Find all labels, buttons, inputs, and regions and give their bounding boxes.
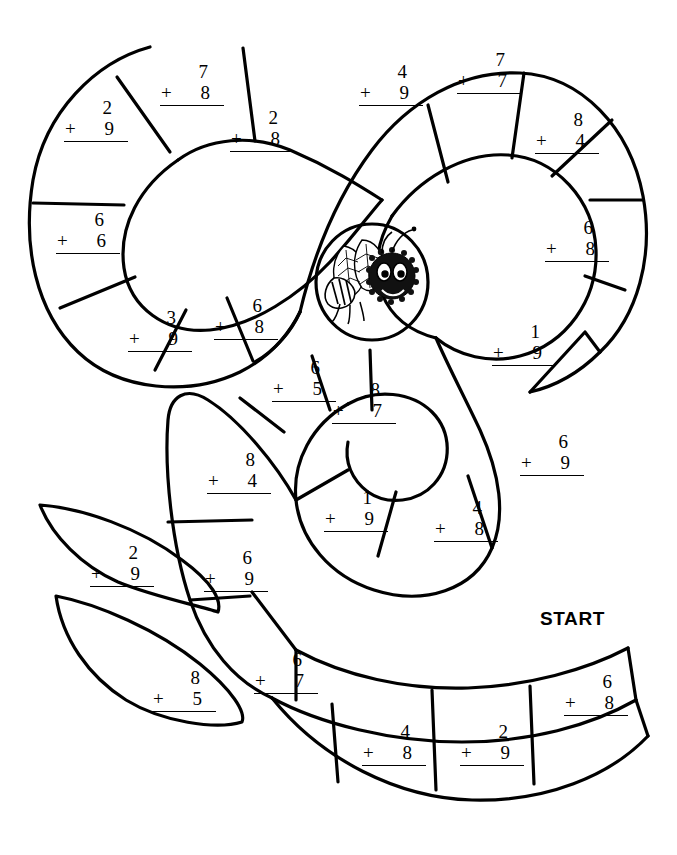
addend-bottom-row: +8 bbox=[362, 743, 426, 766]
plus-operator: + bbox=[492, 343, 504, 362]
addition-problem: 8+4 bbox=[533, 110, 597, 154]
addition-problem: 4+9 bbox=[357, 62, 421, 106]
addend-bottom-row: +7 bbox=[457, 71, 521, 94]
addition-problem: 1+9 bbox=[490, 322, 554, 366]
addend-bottom: 8 bbox=[605, 692, 615, 713]
addend-top: 7 bbox=[455, 50, 519, 71]
plus-operator: + bbox=[564, 693, 576, 712]
addend-bottom: 4 bbox=[248, 470, 258, 491]
addition-problem: 1+9 bbox=[322, 488, 386, 532]
addend-bottom-row: +7 bbox=[332, 401, 396, 424]
addend-bottom-row: +8 bbox=[545, 239, 609, 262]
addend-top: 7 bbox=[158, 62, 222, 83]
addend-bottom: 8 bbox=[201, 82, 211, 103]
plus-operator: + bbox=[214, 317, 226, 336]
addend-top: 6 bbox=[202, 548, 266, 569]
plus-operator: + bbox=[64, 119, 76, 138]
plus-operator: + bbox=[520, 453, 532, 472]
start-label: START bbox=[540, 608, 605, 630]
addend-top: 6 bbox=[54, 210, 118, 231]
addend-bottom: 9 bbox=[245, 568, 255, 589]
addend-bottom-row: +4 bbox=[535, 131, 599, 154]
divider-r1 bbox=[428, 105, 448, 182]
plus-operator: + bbox=[128, 329, 140, 348]
addend-bottom: 9 bbox=[365, 508, 375, 529]
addend-top: 1 bbox=[490, 322, 554, 343]
plus-operator: + bbox=[272, 379, 284, 398]
spiral-inner-loop-b bbox=[347, 442, 368, 492]
addend-top: 2 bbox=[458, 722, 522, 743]
addend-top: 6 bbox=[270, 358, 334, 379]
plus-operator: + bbox=[230, 129, 242, 148]
bottom-strip-end bbox=[628, 648, 636, 700]
addition-problem: 6+8 bbox=[212, 296, 276, 340]
divider-l3 bbox=[33, 203, 124, 205]
divider-b1 bbox=[332, 704, 338, 782]
addend-top: 1 bbox=[322, 488, 386, 509]
bee-illustration-art bbox=[325, 227, 419, 324]
addend-top: 6 bbox=[518, 432, 582, 453]
divider-b3 bbox=[530, 686, 534, 784]
addition-problem: 6+7 bbox=[252, 650, 316, 694]
addend-bottom: 9 bbox=[105, 118, 115, 139]
plus-operator: + bbox=[460, 743, 472, 762]
addend-bottom-row: +9 bbox=[90, 564, 154, 587]
addend-bottom: 9 bbox=[169, 328, 179, 349]
divider-s9 bbox=[252, 592, 296, 650]
plus-operator: + bbox=[254, 671, 266, 690]
plus-operator: + bbox=[362, 743, 374, 762]
addition-problem: 6+8 bbox=[562, 672, 626, 716]
addition-problem: 8+7 bbox=[330, 380, 394, 424]
addend-bottom-row: +8 bbox=[564, 693, 628, 716]
addend-bottom: 8 bbox=[255, 316, 265, 337]
divider-s7 bbox=[168, 520, 252, 522]
addition-problem: 2+9 bbox=[458, 722, 522, 766]
addition-problem: 6+9 bbox=[518, 432, 582, 476]
plus-operator: + bbox=[152, 689, 164, 708]
addend-bottom: 6 bbox=[97, 230, 107, 251]
plus-operator: + bbox=[56, 231, 68, 250]
addend-bottom-row: +9 bbox=[204, 569, 268, 592]
addend-top: 6 bbox=[252, 650, 316, 671]
plus-operator: + bbox=[204, 569, 216, 588]
addend-top: 8 bbox=[533, 110, 597, 131]
addition-problem: 7+8 bbox=[158, 62, 222, 106]
addition-problem: 6+5 bbox=[270, 358, 334, 402]
addition-problem: 7+7 bbox=[455, 50, 519, 94]
addend-top: 2 bbox=[228, 108, 292, 129]
addend-top: 4 bbox=[360, 722, 424, 743]
addition-problem: 4+8 bbox=[432, 498, 496, 542]
addend-top: 6 bbox=[562, 672, 626, 693]
addition-problem: 8+5 bbox=[150, 668, 214, 712]
addend-bottom-row: +7 bbox=[254, 671, 318, 694]
addend-bottom: 7 bbox=[498, 70, 508, 91]
addend-bottom: 9 bbox=[400, 82, 410, 103]
addition-problem: 6+6 bbox=[54, 210, 118, 254]
addend-bottom-row: +8 bbox=[160, 83, 224, 106]
addend-top: 8 bbox=[330, 380, 394, 401]
addend-bottom: 7 bbox=[295, 670, 305, 691]
addend-bottom-row: +9 bbox=[492, 343, 556, 366]
addition-problem: 3+9 bbox=[126, 308, 190, 352]
addition-problem: 2+9 bbox=[88, 543, 152, 587]
addend-bottom: 8 bbox=[403, 742, 413, 763]
addend-bottom: 4 bbox=[576, 130, 586, 151]
addend-bottom-row: +5 bbox=[152, 689, 216, 712]
plus-operator: + bbox=[324, 509, 336, 528]
plus-operator: + bbox=[332, 401, 344, 420]
addend-bottom-row: +9 bbox=[359, 83, 423, 106]
plus-operator: + bbox=[207, 471, 219, 490]
addend-bottom: 7 bbox=[373, 400, 383, 421]
bottom-strip-right-edge bbox=[636, 700, 648, 736]
addend-bottom: 8 bbox=[475, 518, 485, 539]
addend-bottom-row: +8 bbox=[434, 519, 498, 542]
addend-bottom: 9 bbox=[501, 742, 511, 763]
divider-s8 bbox=[190, 596, 250, 600]
addition-problem: 6+9 bbox=[202, 548, 266, 592]
addend-bottom: 9 bbox=[533, 342, 543, 363]
addend-bottom: 8 bbox=[586, 238, 596, 259]
divider-l4 bbox=[60, 277, 135, 308]
plus-operator: + bbox=[359, 83, 371, 102]
divider-b2 bbox=[432, 690, 436, 790]
addend-bottom-row: +9 bbox=[520, 453, 584, 476]
